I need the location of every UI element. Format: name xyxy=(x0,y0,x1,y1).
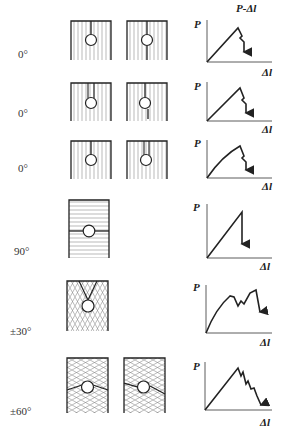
x-axis-label: Δl xyxy=(261,66,273,78)
y-axis-label: P xyxy=(194,80,201,92)
specimen xyxy=(67,358,108,413)
figure-title: P-Δl xyxy=(236,2,257,14)
y-axis-label: P xyxy=(194,137,201,149)
specimen xyxy=(127,83,167,121)
angle-label: 90° xyxy=(14,245,29,257)
row-0deg-2: 0° P Δl xyxy=(18,80,273,135)
y-axis-label: P xyxy=(193,360,200,372)
angle-label: 0° xyxy=(18,162,28,174)
load-displacement-graph: P Δl xyxy=(193,201,272,272)
y-axis-label: P xyxy=(193,281,200,293)
row-0deg-1: 0° P Δl xyxy=(18,18,273,78)
angle-label: ±30° xyxy=(10,325,31,337)
angle-label: ±60° xyxy=(10,405,31,417)
row-pm60deg: ±60° P Δl xyxy=(10,358,272,428)
y-axis-label: P xyxy=(194,18,201,30)
load-displacement-graph: P Δl xyxy=(194,18,273,78)
load-displacement-graph: P Δl xyxy=(193,360,272,428)
row-pm30deg: ±30° P Δl xyxy=(10,281,272,348)
specimen xyxy=(71,83,111,121)
x-axis-label: Δl xyxy=(261,123,273,135)
y-axis-label: P xyxy=(193,201,200,213)
specimen xyxy=(71,141,111,179)
x-axis-label: Δl xyxy=(259,260,271,272)
x-axis-label: Δl xyxy=(259,416,271,428)
angle-label: 0° xyxy=(18,48,28,60)
specimen xyxy=(69,200,109,258)
x-axis-label: Δl xyxy=(259,336,271,348)
fracture-diagram: P-Δl 0° P Δl 0° xyxy=(0,0,286,434)
angle-label: 0° xyxy=(18,107,28,119)
specimen xyxy=(67,281,108,331)
specimen xyxy=(127,21,167,60)
x-axis-label: Δl xyxy=(261,180,273,192)
row-0deg-3: 0° P Δl xyxy=(18,137,273,192)
specimen xyxy=(124,358,165,413)
specimen xyxy=(127,141,167,179)
load-displacement-graph: P Δl xyxy=(194,137,273,192)
row-90deg: 90° P Δl xyxy=(14,200,272,272)
load-displacement-graph: P Δl xyxy=(193,281,272,348)
load-displacement-graph: P Δl xyxy=(194,80,273,135)
specimen xyxy=(71,21,111,60)
